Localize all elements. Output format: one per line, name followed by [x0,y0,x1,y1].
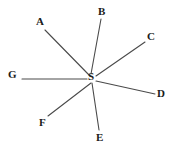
spoke-line-c [96,42,145,76]
node-label-b: B [98,6,105,17]
star-diagram-canvas: S A B C D E F G [0,0,175,154]
spoke-line-b [91,19,101,74]
spoke-line-d [96,81,155,94]
node-label-s: S [88,71,94,82]
node-label-c: C [147,31,155,42]
spoke-line-e [92,83,99,130]
node-label-e: E [96,132,103,143]
node-label-f: F [39,117,46,128]
node-label-a: A [36,16,44,27]
spoke-line-a [45,30,90,76]
spoke-line-f [48,83,91,116]
node-label-g: G [8,69,17,80]
node-label-d: D [157,88,165,99]
